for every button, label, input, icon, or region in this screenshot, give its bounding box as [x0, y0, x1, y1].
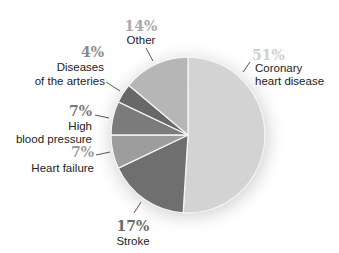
- label-arteries-line2: of the arteries: [20, 75, 105, 88]
- pct-coronary: 51%: [252, 48, 285, 63]
- label-stroke: Stroke: [112, 235, 154, 248]
- label-coronary-line2: heart disease: [255, 75, 324, 88]
- label-other: Other: [118, 34, 164, 47]
- pct-arteries: 4%: [60, 45, 104, 60]
- label-heart-failure: Heart failure: [10, 162, 94, 175]
- label-coronary-line1: Coronary: [255, 62, 302, 75]
- label-high-bp-line1: High: [10, 120, 92, 133]
- pct-high-bp: 7%: [50, 104, 92, 119]
- pct-heart-failure: 7%: [50, 145, 94, 160]
- pct-other: 14%: [118, 19, 164, 34]
- pie-slices: [111, 57, 265, 213]
- label-arteries-line1: Diseases: [20, 61, 104, 74]
- pct-stroke: 17%: [112, 219, 154, 234]
